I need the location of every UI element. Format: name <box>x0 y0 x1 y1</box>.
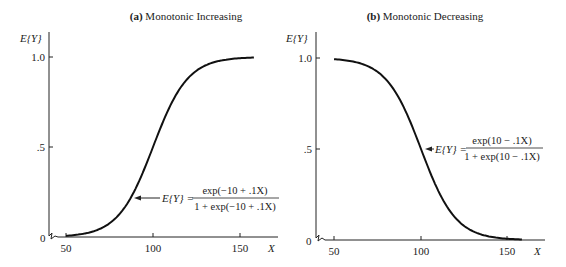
panel-a-axis-break-icon <box>49 232 58 239</box>
svg-text:0: 0 <box>40 232 46 244</box>
panel-b-axis-break-icon <box>316 234 325 241</box>
arrow-icon <box>134 196 141 201</box>
svg-text:X: X <box>267 242 276 254</box>
svg-text:.5: .5 <box>304 143 313 155</box>
svg-text:100: 100 <box>413 245 430 257</box>
panel-a: (a) Monotonic Increasing E{Y} 1.0 .5 0 5… <box>19 10 279 254</box>
arrow-icon <box>425 147 432 152</box>
svg-text:E{Y} =: E{Y} = <box>434 143 467 155</box>
svg-text:.5: .5 <box>37 141 46 153</box>
svg-text:150: 150 <box>499 245 516 257</box>
svg-text:exp(10 − .1X): exp(10 − .1X) <box>472 135 532 147</box>
svg-text:1 + exp(10 − .1X): 1 + exp(10 − .1X) <box>464 151 540 163</box>
svg-text:0: 0 <box>306 235 312 247</box>
svg-text:50: 50 <box>61 242 73 254</box>
figure: (a) Monotonic Increasing E{Y} 1.0 .5 0 5… <box>0 0 566 267</box>
svg-text:1 + exp(−10 + .1X): 1 + exp(−10 + .1X) <box>194 201 276 213</box>
svg-text:X: X <box>533 245 542 257</box>
svg-text:50: 50 <box>329 245 341 257</box>
svg-text:1.0: 1.0 <box>298 52 312 64</box>
svg-text:exp(−10 + .1X): exp(−10 + .1X) <box>202 185 268 197</box>
svg-text:1.0: 1.0 <box>31 51 45 63</box>
panel-a-title: (a) Monotonic Increasing <box>130 10 243 23</box>
panel-b: (b) Monotonic Decreasing E{Y} 1.0 .5 0 5… <box>285 10 545 257</box>
panel-b-ylabel: E{Y} <box>285 32 308 44</box>
svg-text:100: 100 <box>145 242 162 254</box>
panel-b-title: (b) Monotonic Decreasing <box>367 10 484 23</box>
svg-text:E{Y} =: E{Y} = <box>161 192 194 204</box>
panel-a-ylabel: E{Y} <box>19 32 42 44</box>
svg-text:150: 150 <box>232 242 249 254</box>
